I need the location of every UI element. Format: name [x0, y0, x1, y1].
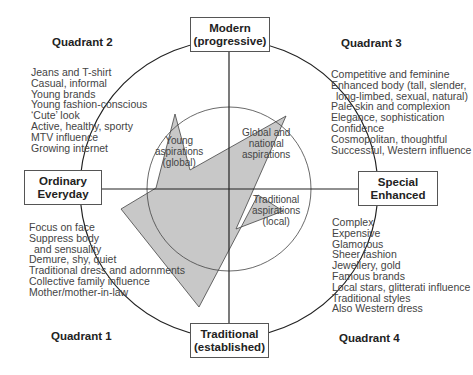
- list-item: Casual, informal: [31, 78, 147, 89]
- axis-label: Ordinary: [25, 175, 101, 188]
- quadrant-4-list: Complex Expensive Glamorous Sheer fashio…: [332, 217, 470, 314]
- axis-sublabel: Everyday: [25, 188, 101, 201]
- axis-label: Traditional: [191, 328, 268, 341]
- quadrant-3-title: Quadrant 3: [341, 37, 402, 49]
- list-item: Growing internet: [31, 143, 147, 154]
- list-item: Successful, Western influence: [331, 145, 471, 156]
- axis-sublabel: Enhanced: [359, 189, 437, 202]
- list-item: Enhanced body (tall, slender,: [331, 80, 471, 91]
- quadrant-1-title: Quadrant 1: [51, 330, 112, 342]
- quadrant-3-list: Competitive and feminine Enhanced body (…: [331, 69, 471, 155]
- axis-box-ordinary: Ordinary Everyday: [24, 170, 102, 205]
- list-item: Cosmopolitan, thoughtful: [331, 134, 471, 145]
- list-item: Local stars, glitterati influence: [332, 282, 470, 293]
- list-item: Also Western dress: [332, 303, 470, 314]
- quadrant-2-list: Jeans and T-shirt Casual, informal Young…: [31, 67, 147, 153]
- quadrant-4-title: Quadrant 4: [339, 332, 400, 344]
- list-item: Suppress body: [29, 233, 185, 244]
- axis-label: Modern: [191, 22, 269, 35]
- axis-box-traditional: Traditional (established): [190, 323, 269, 358]
- quadrant-2-title: Quadrant 2: [52, 36, 113, 48]
- axis-label: Special: [359, 176, 437, 189]
- global-aspirations-label: Global and national aspirations: [242, 128, 290, 160]
- axis-sublabel: (established): [191, 341, 268, 354]
- quadrant-1-list: Focus on face Suppress body and sensuali…: [29, 222, 185, 298]
- list-item: MTV influence: [31, 132, 147, 143]
- axis-box-special: Special Enhanced: [358, 171, 438, 206]
- axis-box-modern: Modern (progressive): [190, 17, 270, 52]
- traditional-aspirations-label: Traditional aspirations (local): [252, 195, 300, 227]
- list-item: Mother/mother-in-law: [29, 287, 185, 298]
- young-aspirations-label: Young aspirations (global): [155, 136, 203, 168]
- list-item: Expensive: [332, 228, 470, 239]
- axis-sublabel: (progressive): [191, 35, 269, 48]
